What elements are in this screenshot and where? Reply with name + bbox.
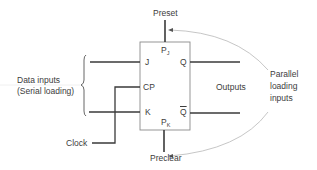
arrow-head-preset bbox=[168, 28, 173, 32]
q-bar-pin-label: Q bbox=[180, 107, 187, 117]
cp-pin-label: CP bbox=[143, 82, 155, 92]
outputs-label: Outputs bbox=[216, 82, 246, 92]
clock-label: Clock bbox=[66, 138, 87, 148]
serial-loading-label: (Serial loading) bbox=[17, 86, 74, 96]
k-pin-label: K bbox=[145, 107, 151, 117]
j-pin-label: J bbox=[145, 57, 149, 67]
inputs-label: inputs bbox=[270, 93, 293, 103]
q-pin-label: Q bbox=[180, 57, 187, 67]
preset-pin-sub: J bbox=[167, 50, 170, 56]
data-inputs-label: Data inputs bbox=[17, 75, 60, 85]
preset-pin-label: PJ bbox=[161, 45, 169, 58]
data-inputs-bracket bbox=[81, 55, 86, 116]
preset-label: Preset bbox=[153, 8, 178, 18]
parallel-label: Parallel bbox=[270, 69, 298, 79]
arrow-to-preclear bbox=[170, 112, 268, 156]
loading-label: loading bbox=[270, 81, 297, 91]
preclear-pin-sub: K bbox=[167, 122, 171, 128]
preclear-pin-label: PK bbox=[161, 117, 170, 130]
clock-line bbox=[92, 87, 140, 143]
preclear-label: Preclear bbox=[150, 153, 182, 163]
